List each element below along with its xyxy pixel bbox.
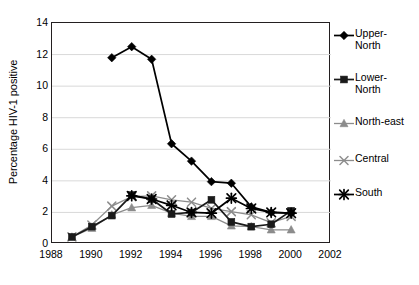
- asterisk-marker-icon: [333, 187, 355, 200]
- legend-label: Upper- North: [355, 28, 387, 51]
- x-tick-label: 1992: [119, 249, 142, 260]
- data-point-marker: [341, 76, 348, 83]
- square-marker-icon: [333, 72, 355, 85]
- chart-legend: Upper- NorthLower- NorthNorth-eastCentra…: [333, 28, 419, 218]
- x-tick-label: 1990: [79, 249, 102, 260]
- legend-label: Central: [355, 153, 389, 165]
- legend-item-lower-north[interactable]: Lower- North: [333, 72, 419, 95]
- legend-label: North-east: [355, 116, 404, 128]
- data-point-marker: [339, 190, 349, 200]
- legend-label: South: [355, 187, 382, 199]
- x-tick-label: 2000: [278, 249, 301, 260]
- triangle-marker-icon: [333, 116, 355, 129]
- x-tick-label: 1998: [239, 249, 262, 260]
- x-marker-icon: [333, 153, 355, 166]
- x-tick-label: 1994: [159, 249, 182, 260]
- x-tick-label: 1988: [39, 249, 62, 260]
- chart-figure: Percentage HIV-1 positive 02468101214 19…: [0, 0, 419, 285]
- legend-item-north-east[interactable]: North-east: [333, 116, 419, 129]
- legend-item-central[interactable]: Central: [333, 153, 419, 166]
- x-tick-label: 1996: [199, 249, 222, 260]
- legend-label: Lower- North: [355, 72, 387, 95]
- diamond-marker-icon: [333, 28, 355, 41]
- legend-item-south[interactable]: South: [333, 187, 419, 200]
- data-point-marker: [340, 31, 348, 39]
- legend-item-upper-north[interactable]: Upper- North: [333, 28, 419, 51]
- x-tick-label: 2002: [318, 249, 341, 260]
